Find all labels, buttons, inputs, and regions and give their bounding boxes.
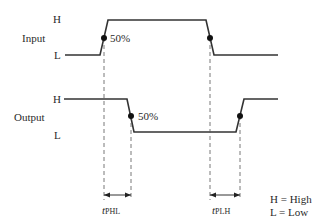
tplh-arrow <box>210 193 240 198</box>
output-50-percent-label: 50% <box>138 111 158 122</box>
tphl-arrow <box>104 193 131 198</box>
output-fall-50-dot <box>128 113 134 119</box>
tphl-subscript: PHL <box>105 207 120 216</box>
legend-high: H = High <box>270 194 312 205</box>
tplh-subscript: PLH <box>215 207 230 216</box>
output-signal-label: Output <box>14 112 45 123</box>
input-50-percent-label: 50% <box>110 33 130 44</box>
input-waveform <box>65 20 278 55</box>
input-low-label: L <box>54 50 61 61</box>
legend-low: L = Low <box>270 207 308 218</box>
tphl-label: tPHL <box>102 205 120 217</box>
output-high-label: H <box>53 94 61 105</box>
input-high-label: H <box>53 14 61 25</box>
output-waveform <box>64 99 278 132</box>
timing-diagram-canvas <box>0 0 327 224</box>
input-signal-label: Input <box>22 33 45 44</box>
output-low-label: L <box>54 130 61 141</box>
tplh-label: tPLH <box>212 205 230 217</box>
input-fall-50-dot <box>207 35 213 41</box>
input-rise-50-dot <box>101 35 107 41</box>
output-rise-50-dot <box>237 113 243 119</box>
